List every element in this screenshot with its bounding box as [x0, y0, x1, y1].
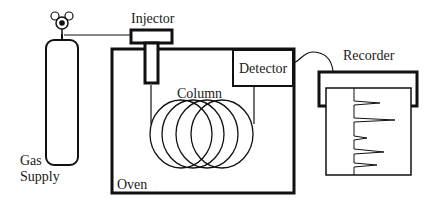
detector-label: Detector [239, 61, 288, 76]
recorder-chart-paper [326, 88, 411, 175]
valve-knob-right-icon [65, 12, 73, 20]
gas-supply-label-line1: Gas [20, 153, 42, 168]
column-label: Column [177, 86, 222, 101]
recorder-label: Recorder [343, 48, 395, 63]
valve-knob-left-icon [51, 12, 59, 20]
oven-label: Oven [117, 177, 147, 192]
signal-cable [294, 52, 333, 71]
injector [131, 30, 172, 83]
column-coils [150, 100, 253, 168]
gc-diagram: Injector Detector Column Oven Recorder G… [0, 0, 439, 204]
gas-supply-label-line2: Supply [20, 169, 60, 184]
recorder [319, 72, 417, 175]
injector-label: Injector [131, 11, 175, 26]
